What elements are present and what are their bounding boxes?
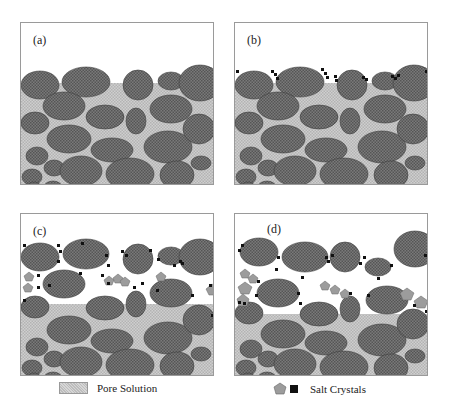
square-crystal-icon (290, 385, 298, 393)
pentagon-crystal-icon (273, 382, 287, 395)
panel-d: (d) (234, 213, 428, 376)
panel-d-label: (d) (267, 222, 281, 237)
panel-c-diagram (21, 214, 214, 376)
panel-c: (c) (20, 213, 214, 376)
panel-b-label: (b) (247, 33, 261, 48)
panel-a: (a) (20, 22, 214, 185)
legend-salt-crystals: Salt Crystals (273, 382, 366, 395)
panel-d-diagram (235, 214, 428, 376)
panel-a-diagram (21, 23, 214, 185)
panel-a-label: (a) (33, 33, 46, 48)
pore-solution-swatch (59, 382, 88, 394)
panel-b-diagram (235, 23, 428, 185)
salt-crystals-label: Salt Crystals (310, 383, 366, 395)
panel-c-label: (c) (33, 224, 46, 239)
legend-pore-solution: Pore Solution (59, 382, 157, 394)
pore-solution-label: Pore Solution (97, 382, 157, 394)
panel-b: (b) (234, 22, 428, 185)
